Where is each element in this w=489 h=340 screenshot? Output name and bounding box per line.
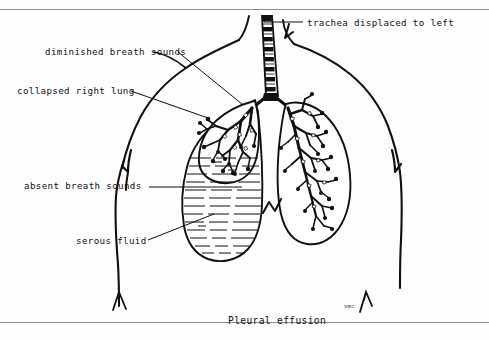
label-serous-fluid: serous fluid <box>76 236 147 245</box>
collapsed-right-lung <box>182 100 262 261</box>
svg-text:vmc: vmc <box>344 303 354 309</box>
artist-signature: vmc <box>344 292 372 312</box>
label-trachea-displaced: trachea displaced to left <box>307 18 454 27</box>
figure-page: vmc trachea displaced to left diminished… <box>0 0 489 340</box>
label-absent-breath-sounds: absent breath sounds <box>24 181 142 190</box>
leader-diminished <box>178 52 242 104</box>
label-collapsed-right-lung: collapsed right lung <box>17 86 135 95</box>
label-diminished-breath-sounds: diminished breath sounds <box>45 47 186 56</box>
figure-caption: Pleural effusion <box>228 316 326 326</box>
left-lung <box>278 92 351 244</box>
